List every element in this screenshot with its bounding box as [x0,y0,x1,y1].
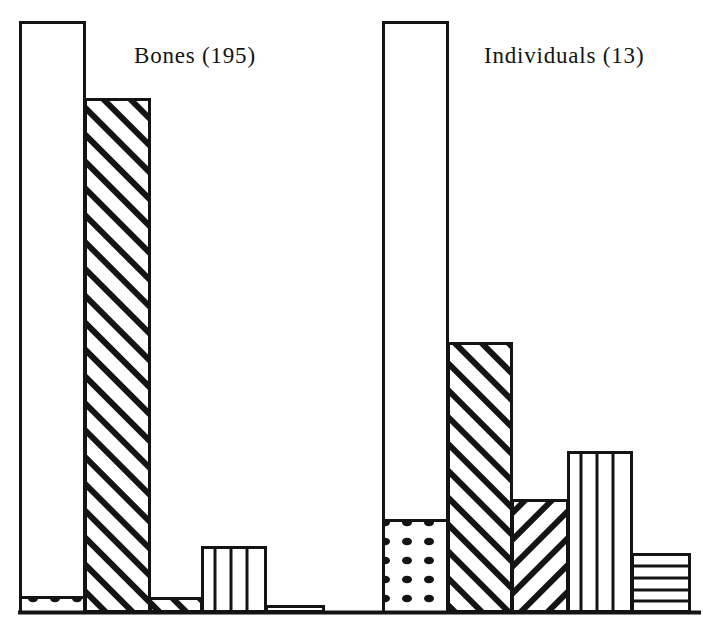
bar-bones-category-3[interactable] [151,599,202,612]
bar-individuals-category-3[interactable] [513,501,568,612]
group-label-bones: Bones (195) [134,43,256,69]
bar-group-bones [21,23,324,612]
bar-dotted-base [22,597,83,611]
bar-individuals-category-2[interactable] [449,344,512,612]
bar-body [633,555,690,612]
bar-group-individuals [384,23,690,612]
bar-chart [0,0,703,635]
group-label-individuals: Individuals (13) [484,43,644,69]
bar-bones-category-4[interactable] [203,548,266,612]
bar-body [151,599,202,612]
bar-body [449,344,512,612]
bar-body [203,548,266,612]
bar-bones-category-1[interactable] [21,23,85,612]
bar-body [513,501,568,612]
bar-body [21,23,85,612]
bar-individuals-category-1[interactable] [384,23,448,612]
bar-individuals-category-5[interactable] [633,555,690,612]
figure-canvas: Bones (195) Individuals (13) [0,0,703,635]
bar-body [86,100,150,612]
bar-bones-category-2[interactable] [86,100,150,612]
bar-individuals-category-4[interactable] [569,453,632,612]
bar-body [569,453,632,612]
bar-dotted-base [385,520,446,611]
